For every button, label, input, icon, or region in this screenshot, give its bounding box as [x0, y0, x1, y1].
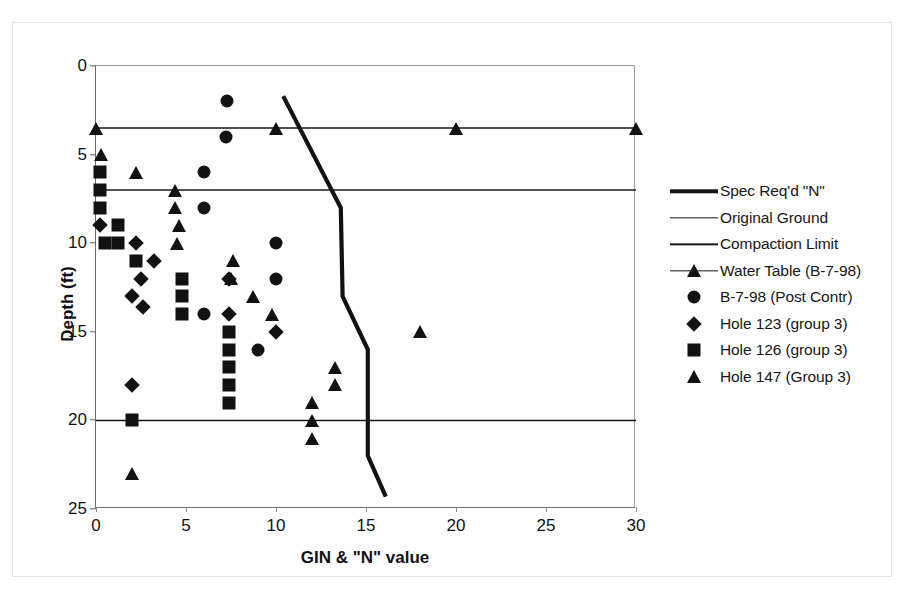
legend-item[interactable]: B-7-98 (Post Contr) [668, 284, 898, 311]
chart-figure: Depth (ft) GIN & "N" value 0510152025051… [0, 0, 905, 607]
x-tick-label: 15 [357, 516, 376, 536]
plot-area: 0510152025051015202530 [95, 65, 635, 508]
legend-diamond-icon [686, 316, 702, 332]
legend-item-label: Hole 126 (group 3) [720, 341, 847, 359]
y-tick-label: 10 [68, 233, 87, 253]
y-tick-mark [90, 65, 96, 66]
y-tick-mark [90, 331, 96, 332]
legend-item-label: Hole 123 (group 3) [720, 315, 847, 333]
legend-item-label: Hole 147 (Group 3) [720, 368, 851, 386]
legend-item[interactable]: Water Table (B-7-98) [668, 258, 898, 285]
legend-line-swatch [670, 190, 718, 193]
legend-item-label: Original Ground [720, 209, 828, 227]
legend-circle-icon [688, 291, 701, 304]
legend-key [668, 258, 720, 284]
y-tick-mark [90, 154, 96, 155]
x-tick-mark [96, 507, 97, 512]
x-tick-label: 30 [627, 516, 646, 536]
x-tick-mark [546, 507, 547, 512]
legend-key [668, 178, 720, 204]
x-tick-label: 20 [447, 516, 466, 536]
y-tick-label: 15 [68, 322, 87, 342]
y-tick-label: 25 [68, 499, 87, 519]
series-line [283, 96, 386, 496]
legend-item[interactable]: Hole 126 (group 3) [668, 337, 898, 364]
legend-key [668, 311, 720, 337]
x-tick-label: 0 [91, 516, 100, 536]
legend-item-label: Water Table (B-7-98) [720, 262, 861, 280]
y-tick-mark [90, 242, 96, 243]
legend-line-swatch [670, 244, 718, 245]
chart-legend: Spec Req'd "N"Original GroundCompaction … [668, 178, 898, 390]
legend-item-label: Spec Req'd "N" [720, 182, 825, 200]
legend-key [668, 284, 720, 310]
x-tick-mark [276, 507, 277, 512]
legend-item[interactable]: Spec Req'd "N" [668, 178, 898, 205]
legend-item[interactable]: Hole 123 (group 3) [668, 311, 898, 338]
legend-square-icon [688, 344, 701, 357]
x-tick-label: 10 [267, 516, 286, 536]
x-axis-title: GIN & "N" value [95, 548, 635, 568]
series-layer [96, 66, 636, 509]
y-tick-label: 0 [78, 56, 87, 76]
legend-line-swatch [670, 217, 718, 218]
legend-line-swatch [670, 270, 718, 271]
x-tick-mark [186, 507, 187, 512]
y-tick-mark [90, 420, 96, 421]
legend-item[interactable]: Hole 147 (Group 3) [668, 364, 898, 391]
x-tick-label: 25 [537, 516, 556, 536]
legend-item[interactable]: Compaction Limit [668, 231, 898, 258]
x-tick-mark [456, 507, 457, 512]
legend-key [668, 205, 720, 231]
x-tick-mark [636, 507, 637, 512]
legend-triangle-icon [687, 370, 701, 383]
legend-item[interactable]: Original Ground [668, 205, 898, 232]
legend-key [668, 337, 720, 363]
legend-key [668, 364, 720, 390]
x-tick-label: 5 [181, 516, 190, 536]
legend-key [668, 231, 720, 257]
legend-item-label: Compaction Limit [720, 235, 838, 253]
legend-item-label: B-7-98 (Post Contr) [720, 288, 852, 306]
x-tick-mark [366, 507, 367, 512]
y-tick-label: 20 [68, 410, 87, 430]
y-tick-label: 5 [78, 145, 87, 165]
